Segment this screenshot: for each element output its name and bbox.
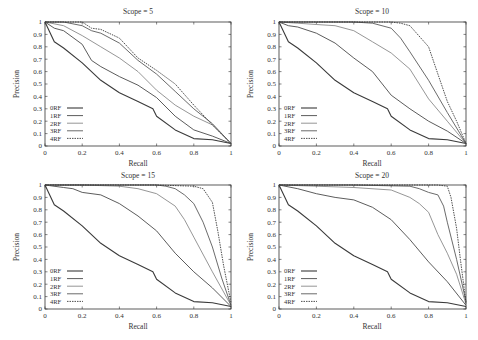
y-tick-label: 0.5 bbox=[267, 80, 276, 88]
y-tick-label: 0.4 bbox=[267, 93, 276, 101]
legend-label: 0RF bbox=[50, 267, 62, 274]
plot-curves bbox=[279, 22, 466, 144]
y-axis-title: Precision bbox=[246, 70, 255, 98]
y-tick-label: 1 bbox=[39, 181, 43, 189]
chart-title: Scope = 15 bbox=[121, 171, 155, 180]
legend-label: 3RF bbox=[284, 127, 296, 134]
y-tick-label: 0.9 bbox=[33, 31, 42, 39]
legend-label: 2RF bbox=[284, 120, 296, 127]
y-tick-label: 0.1 bbox=[33, 293, 42, 301]
chart-title: Scope = 5 bbox=[123, 7, 153, 16]
y-tick-label: 0.2 bbox=[267, 281, 276, 289]
legend-label: 2RF bbox=[284, 283, 296, 290]
legend-label: 4RF bbox=[50, 298, 62, 305]
y-tick-label: 0.8 bbox=[33, 206, 42, 214]
y-tick-label: 1 bbox=[273, 18, 277, 26]
y-tick-label: 0.8 bbox=[33, 43, 42, 51]
plot-frame bbox=[279, 22, 466, 146]
y-tick-label: 0 bbox=[273, 142, 277, 150]
y-tick-label: 1 bbox=[273, 181, 277, 189]
x-axis-title: Recall bbox=[362, 159, 381, 168]
y-tick-label: 0.5 bbox=[33, 243, 42, 251]
series-0rf bbox=[45, 185, 231, 307]
legend-label: 4RF bbox=[284, 135, 296, 142]
y-tick-label: 0.3 bbox=[33, 105, 42, 113]
legend: 0RF1RF2RF3RF4RF bbox=[50, 104, 83, 141]
series-0rf bbox=[279, 22, 466, 144]
y-tick-label: 0.1 bbox=[33, 130, 42, 138]
legend-label: 1RF bbox=[50, 275, 62, 282]
x-tick-label: 1 bbox=[229, 149, 233, 157]
legend-label: 1RF bbox=[284, 275, 296, 282]
y-axis-title: Precision bbox=[12, 70, 21, 98]
x-tick-label: 0.4 bbox=[115, 149, 124, 157]
chart-title: Scope = 20 bbox=[355, 171, 389, 180]
y-tick-label: 0.7 bbox=[33, 219, 42, 227]
plot-frame bbox=[45, 22, 231, 146]
series-4rf bbox=[279, 22, 466, 144]
legend-label: 2RF bbox=[50, 283, 62, 290]
x-tick-label: 0.8 bbox=[424, 149, 433, 157]
y-tick-label: 0 bbox=[273, 305, 277, 313]
legend: 0RF1RF2RF3RF4RF bbox=[50, 267, 83, 304]
legend-label: 4RF bbox=[284, 298, 296, 305]
x-tick-label: 0.2 bbox=[78, 312, 87, 320]
plot-curves bbox=[45, 185, 231, 307]
series-3rf bbox=[279, 185, 466, 302]
y-tick-label: 0.6 bbox=[267, 231, 276, 239]
x-tick-label: 1 bbox=[464, 312, 468, 320]
y-axis-title: Precision bbox=[12, 233, 21, 261]
x-tick-label: 0.4 bbox=[349, 149, 358, 157]
y-tick-label: 0.1 bbox=[267, 130, 276, 138]
y-tick-label: 0.9 bbox=[267, 194, 276, 202]
legend-label: 0RF bbox=[284, 267, 296, 274]
y-tick-label: 0.6 bbox=[33, 231, 42, 239]
y-tick-label: 0.3 bbox=[33, 268, 42, 276]
axis-ticks: 00.20.40.60.8100.10.20.30.40.50.60.70.80… bbox=[33, 181, 233, 320]
legend-label: 3RF bbox=[50, 290, 62, 297]
x-tick-label: 0.8 bbox=[189, 149, 198, 157]
y-axis-title: Precision bbox=[246, 233, 255, 261]
legend: 0RF1RF2RF3RF4RF bbox=[284, 104, 317, 141]
x-axis-title: Recall bbox=[128, 322, 147, 331]
y-tick-label: 0.8 bbox=[267, 43, 276, 51]
x-tick-label: 1 bbox=[229, 312, 233, 320]
series-3rf bbox=[45, 22, 231, 144]
x-tick-label: 0.8 bbox=[189, 312, 198, 320]
y-tick-label: 0 bbox=[39, 142, 43, 150]
axis-ticks: 00.20.40.60.8100.10.20.30.40.50.60.70.80… bbox=[33, 18, 233, 157]
series-1rf bbox=[279, 22, 466, 144]
legend: 0RF1RF2RF3RF4RF bbox=[284, 267, 317, 304]
y-tick-label: 0.7 bbox=[33, 56, 42, 64]
series-3rf bbox=[279, 22, 466, 144]
series-4rf bbox=[45, 22, 231, 144]
legend-label: 4RF bbox=[50, 135, 62, 142]
y-tick-label: 0 bbox=[39, 305, 43, 313]
x-tick-label: 0.2 bbox=[78, 149, 87, 157]
plot-frame bbox=[45, 185, 231, 309]
x-tick-label: 0.8 bbox=[424, 312, 433, 320]
y-tick-label: 0.8 bbox=[267, 206, 276, 214]
y-tick-label: 0.4 bbox=[33, 256, 42, 264]
x-tick-label: 0 bbox=[277, 149, 281, 157]
x-tick-label: 0 bbox=[277, 312, 281, 320]
chart-title: Scope = 10 bbox=[355, 7, 389, 16]
y-tick-label: 0.9 bbox=[33, 194, 42, 202]
series-1rf bbox=[279, 185, 466, 305]
y-tick-label: 0.4 bbox=[33, 93, 42, 101]
x-tick-label: 0.6 bbox=[152, 312, 161, 320]
y-tick-label: 0.6 bbox=[267, 68, 276, 76]
plot-curves bbox=[45, 22, 231, 144]
x-tick-label: 0.4 bbox=[115, 312, 124, 320]
series-4rf bbox=[45, 185, 231, 303]
x-tick-label: 0.4 bbox=[349, 312, 358, 320]
y-tick-label: 0.4 bbox=[267, 256, 276, 264]
y-tick-label: 0.3 bbox=[267, 105, 276, 113]
panel-scope-15: Scope = 15 Recall Precision 00.20.40.60.… bbox=[12, 171, 233, 331]
series-0rf bbox=[279, 185, 466, 307]
y-tick-label: 0.5 bbox=[33, 80, 42, 88]
legend-label: 0RF bbox=[50, 104, 62, 111]
series-4rf bbox=[279, 185, 466, 303]
y-tick-label: 0.3 bbox=[267, 268, 276, 276]
axis-ticks: 00.20.40.60.8100.10.20.30.40.50.60.70.80… bbox=[267, 181, 468, 320]
